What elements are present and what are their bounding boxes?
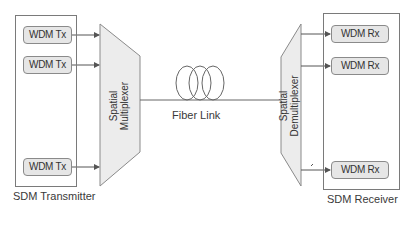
demultiplexer-line-1: Spatial [278,66,289,146]
wdm-rx-2: WDM Rx [331,57,389,75]
spatial-demultiplexer-label: Spatial Demultiplexer [278,66,302,146]
spatial-multiplexer-label: Spatial Multiplexer [108,66,132,146]
wdm-rx-3: WDM Rx [331,161,389,179]
demultiplexer-line-2: Demultiplexer [289,66,300,146]
sdm-transmitter-label: SDM Transmitter [13,190,96,202]
wdm-tx-2: WDM Tx [23,56,72,74]
wdm-tx-3: WDM Tx [23,158,72,176]
sdm-receiver-label: SDM Receiver [327,193,398,205]
stray-mark [311,164,313,166]
fiber-link-label: Fiber Link [172,109,220,121]
multiplexer-line-1: Spatial [108,66,119,146]
wdm-tx-1: WDM Tx [23,26,72,44]
multiplexer-line-2: Multiplexer [119,66,130,146]
fiber-coil-icon [176,66,224,100]
wdm-rx-1: WDM Rx [331,25,389,43]
